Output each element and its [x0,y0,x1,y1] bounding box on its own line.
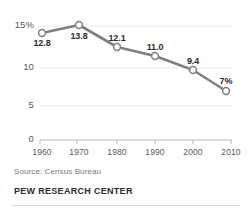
data-label-1970: 13.8 [62,31,96,41]
xtick-label-1960: 1960 [25,147,59,157]
ytick-label-10: 10 [0,61,34,72]
data-label-1980: 12.1 [100,33,134,43]
data-point-2010 [223,88,230,95]
xtick-label-1980: 1980 [100,147,134,157]
ytick-label-15: 15% [0,19,34,30]
ytick-label-0: 0 [0,133,34,144]
data-point-1960 [39,30,46,37]
data-point-1990 [152,53,159,60]
xtick-label-1970: 1970 [62,147,96,157]
xtick-label-2010: 2010 [214,147,248,157]
pew-line-chart-figure: 15% 10 5 0 1960 1970 1980 1990 2000 2010… [0,0,252,220]
xtick-label-2000: 2000 [176,147,210,157]
data-label-2000: 9.4 [176,56,210,66]
xtick-label-1990: 1990 [138,147,172,157]
ytick-label-5: 5 [0,99,34,110]
data-label-2010: 7% [209,76,243,86]
chart-plot-area: 15% 10 5 0 1960 1970 1980 1990 2000 2010… [0,0,252,160]
data-point-1980 [114,44,121,51]
chart-brand-footer: PEW RESEARCH CENTER [14,186,133,196]
data-point-1970 [76,22,83,29]
footer-divider [12,205,240,206]
x-axis [40,140,232,144]
data-point-2000 [190,67,197,74]
chart-source-note: Source: Census Bureau [14,167,101,176]
data-label-1990: 11.0 [138,42,172,52]
data-label-1960: 12.8 [25,38,59,48]
